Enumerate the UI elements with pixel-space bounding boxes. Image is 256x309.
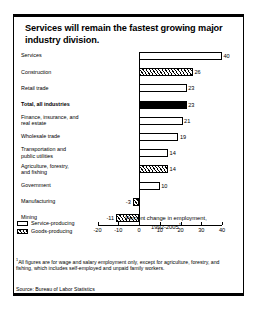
legend-label: Goods-producing: [31, 228, 72, 235]
bar-value-label: 23: [188, 84, 194, 92]
category-label-line: Construction: [21, 69, 116, 75]
bar: [139, 68, 193, 76]
bar-value-label: 10: [161, 182, 167, 190]
bar-value-label: 21: [184, 117, 190, 125]
category-label-line: public utilities: [21, 153, 116, 159]
legend: Service-producingGoods-producing: [17, 220, 74, 236]
legend-swatch: [17, 221, 28, 227]
category-label: Manufacturing: [21, 198, 116, 204]
x-axis-title: Percent change in employment, 1992-20051: [92, 215, 240, 231]
category-label: Total, all industries: [21, 101, 116, 107]
category-label: Transportation andpublic utilities: [21, 146, 116, 159]
category-label-line: and fishing: [21, 169, 116, 175]
category-label: Finance, insurance, andreal estate: [21, 114, 116, 127]
bar-value-label: 14: [170, 149, 176, 157]
bar-value-label: 23: [188, 101, 194, 109]
x-axis-footnote-marker: 1: [179, 222, 181, 227]
category-label-line: Government: [21, 182, 116, 188]
x-axis-title-range: 1992-2005: [151, 224, 179, 230]
category-label: Government: [21, 182, 116, 188]
category-label-line: Retail trade: [21, 85, 116, 91]
source-line: Source: Bureau of Labor Statistics: [16, 286, 95, 292]
category-label: Services: [21, 52, 116, 58]
category-label: Construction: [21, 69, 116, 75]
footnote: 1All figures are for wage and salary emp…: [16, 257, 226, 272]
footnote-text: All figures are for wage and salary empl…: [16, 259, 219, 271]
legend-swatch: [17, 229, 28, 235]
x-axis-title-line2: 1992-20051: [92, 222, 240, 231]
bar-value-label: 19: [180, 133, 186, 141]
bar: [139, 165, 168, 173]
zero-axis-line: [139, 52, 140, 223]
legend-label: Service-producing: [31, 220, 74, 227]
bar: [139, 149, 168, 157]
bar: [139, 52, 222, 60]
x-axis-title-line1: Percent change in employment,: [92, 215, 240, 222]
category-label-line: Services: [21, 52, 116, 58]
bar-value-label: 40: [224, 52, 230, 60]
category-label-line: Manufacturing: [21, 198, 116, 204]
bar: [139, 117, 183, 125]
legend-item: Goods-producing: [17, 228, 74, 235]
bar-chart-plot-area: ServicesConstructionRetail tradeTotal, a…: [14, 50, 243, 240]
bar: [139, 84, 187, 92]
category-label-line: Wholesale trade: [21, 133, 116, 139]
bar: [139, 133, 178, 141]
category-label: Retail trade: [21, 85, 116, 91]
category-label: Wholesale trade: [21, 133, 116, 139]
bar-value-label: 14: [170, 165, 176, 173]
legend-item: Service-producing: [17, 220, 74, 227]
category-label-line: Total, all industries: [21, 101, 116, 107]
category-label-line: real estate: [21, 120, 116, 126]
bar: [139, 182, 160, 190]
category-label: Agriculture, forestry,and fishing: [21, 163, 116, 176]
chart-title: Services will remain the fastest growing…: [25, 23, 225, 46]
bar-value-label: -3: [121, 198, 131, 206]
bar: [139, 101, 187, 109]
bar-value-label: 26: [194, 68, 200, 76]
chart-figure: Services will remain the fastest growing…: [13, 14, 244, 296]
